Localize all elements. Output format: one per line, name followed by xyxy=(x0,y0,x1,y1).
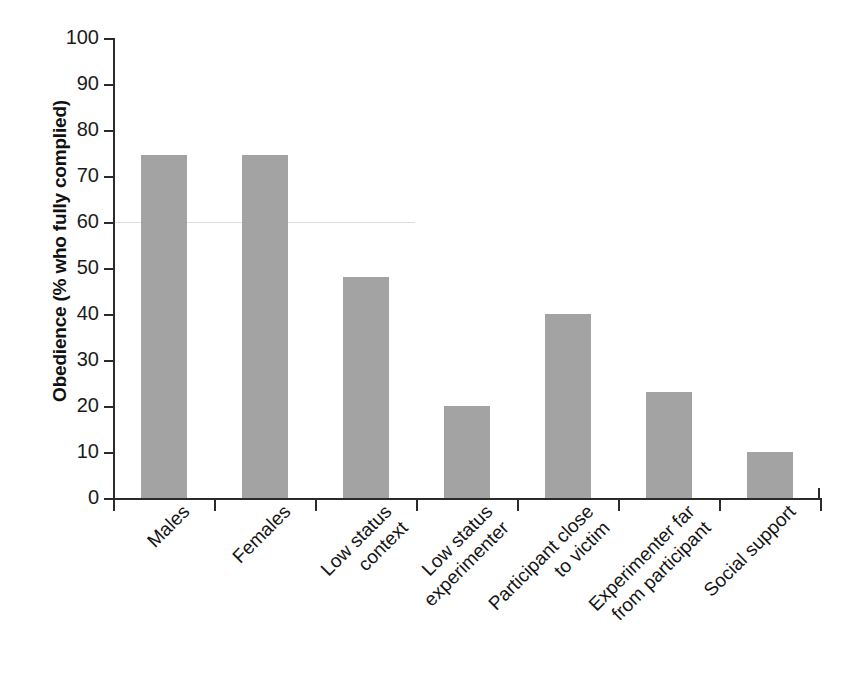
bar xyxy=(545,314,591,498)
y-tick-label: 60 xyxy=(47,209,99,233)
y-tick-label: 0 xyxy=(47,485,99,509)
y-tick xyxy=(104,452,114,454)
bar-chart: Obedience (% who fully complied) 1009080… xyxy=(0,0,855,683)
y-tick-label: 100 xyxy=(47,25,99,49)
bar xyxy=(646,392,692,498)
y-tick xyxy=(104,360,114,362)
bar xyxy=(242,155,288,498)
y-tick-label: 40 xyxy=(47,301,99,325)
y-tick xyxy=(104,268,114,270)
y-tick xyxy=(104,130,114,132)
y-tick-label: 90 xyxy=(47,71,99,95)
y-tick xyxy=(104,38,114,40)
x-axis-label: Males xyxy=(15,500,194,679)
y-tick xyxy=(104,84,114,86)
plot-area: 1009080706050403020100 xyxy=(113,38,820,500)
y-tick xyxy=(104,222,114,224)
page-bleed-text: · · · · · · · · · · · · · · · · · · · · … xyxy=(118,669,738,677)
y-tick-label: 80 xyxy=(47,117,99,141)
bar xyxy=(444,406,490,498)
y-tick-label: 30 xyxy=(47,347,99,371)
y-tick-label: 50 xyxy=(47,255,99,279)
y-tick-label: 20 xyxy=(47,393,99,417)
y-tick-label: 70 xyxy=(47,163,99,187)
y-tick xyxy=(104,314,114,316)
bar xyxy=(747,452,793,498)
x-axis-labels: MalesFemalesLow status contextLow status… xyxy=(113,500,853,660)
bar xyxy=(343,277,389,498)
y-tick xyxy=(104,406,114,408)
bar xyxy=(141,155,187,498)
y-tick xyxy=(104,176,114,178)
y-tick-label: 10 xyxy=(47,439,99,463)
